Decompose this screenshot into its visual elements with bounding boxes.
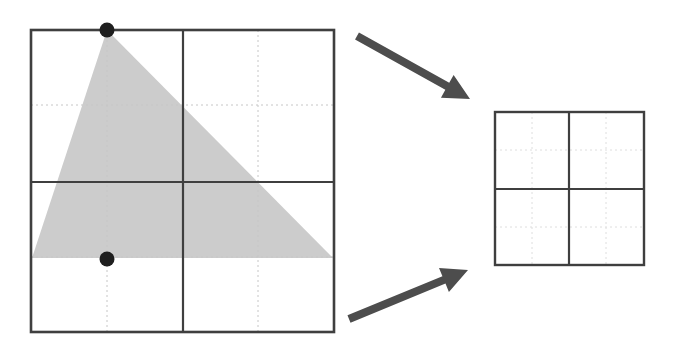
bottom-point bbox=[100, 252, 115, 267]
diagram-svg bbox=[0, 0, 673, 350]
diagram-canvas bbox=[0, 0, 673, 350]
top-point bbox=[100, 23, 115, 38]
